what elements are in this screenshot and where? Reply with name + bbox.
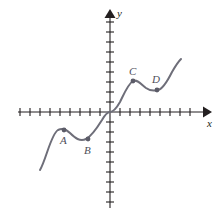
y-axis-label: y xyxy=(116,7,122,19)
y-axis-arrow-icon xyxy=(105,9,116,18)
point-marker-c xyxy=(131,79,136,84)
graph-canvas: A B C D x y xyxy=(0,0,221,214)
x-axis-arrow-icon xyxy=(203,107,212,118)
point-marker-b xyxy=(86,137,91,142)
point-label-a: A xyxy=(59,134,67,146)
point-marker-a xyxy=(62,128,67,133)
point-label-d: D xyxy=(151,73,160,85)
point-marker-d xyxy=(155,88,160,93)
point-label-c: C xyxy=(129,65,137,77)
x-axis-label: x xyxy=(206,117,212,129)
graph-figure: A B C D x y xyxy=(0,0,221,214)
point-label-b: B xyxy=(84,144,91,156)
y-axis xyxy=(105,9,116,208)
